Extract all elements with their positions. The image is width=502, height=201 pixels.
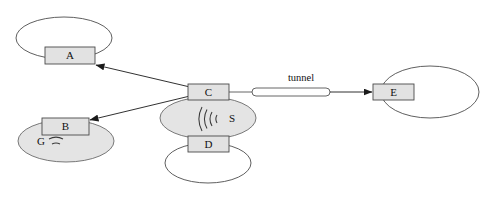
edge-line-c-to-a (96, 65, 190, 87)
node-e-label: E (390, 86, 397, 98)
node-b[interactable]: B (42, 118, 89, 135)
node-e[interactable]: E (373, 84, 414, 100)
node-d[interactable]: D (188, 136, 229, 152)
node-b-label: B (62, 120, 69, 132)
node-d-label: D (205, 138, 213, 150)
diagram-canvas: tunnel G S A (0, 0, 502, 201)
node-a-label: A (66, 49, 74, 61)
zone-ellipse-c (160, 97, 256, 139)
node-c-label: C (205, 86, 212, 98)
network-topology-diagram: tunnel G S A (0, 0, 502, 201)
tunnel-pipe (252, 88, 330, 96)
node-a[interactable]: A (45, 47, 95, 64)
zone-label-s: S (229, 112, 235, 124)
tunnel-label: tunnel (288, 72, 314, 83)
zone-label-g: G (37, 135, 45, 147)
node-c[interactable]: C (188, 84, 229, 100)
